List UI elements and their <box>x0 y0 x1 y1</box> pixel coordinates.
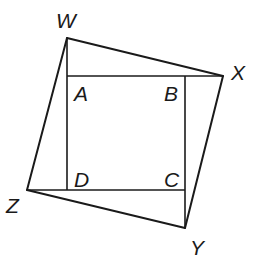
label-w: W <box>56 9 78 32</box>
outer-quadrilateral-wxyz <box>27 38 223 228</box>
segment-xy <box>185 76 223 228</box>
geometry-diagram: W X Y Z A B C D <box>0 0 259 261</box>
label-a: A <box>72 82 88 105</box>
extension-segments <box>27 38 223 228</box>
label-d: D <box>74 168 89 191</box>
label-b: B <box>164 82 178 105</box>
label-y: Y <box>190 236 206 259</box>
segment-zw <box>27 38 67 190</box>
label-x: X <box>230 61 246 84</box>
segment-wx <box>67 38 223 76</box>
label-z: Z <box>5 194 20 217</box>
label-c: C <box>164 168 180 191</box>
segment-yz <box>27 190 185 228</box>
